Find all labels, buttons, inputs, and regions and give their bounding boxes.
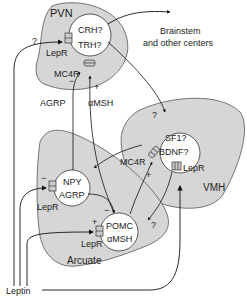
- pomc-plus-sign: +: [92, 217, 97, 227]
- npy-neuron-line1: NPY: [63, 177, 82, 187]
- vmh-mc4r-label: MC4R: [120, 157, 146, 167]
- pvn-mc4r-receptor-icon: [84, 60, 95, 66]
- vmh-lepr-label: LepR: [183, 163, 205, 173]
- agrp-signal-label: AGRP: [40, 98, 66, 108]
- vmh-lepr-receptor-icon: [172, 162, 181, 170]
- pomc-neuron-line2: αMSH: [107, 234, 132, 244]
- vmh-plus-sign: +: [146, 170, 151, 180]
- pvn-leptin-unknown: ?: [32, 36, 37, 46]
- arcuate-vmh-unknown: ?: [151, 220, 156, 230]
- arcuate-label: Arcuate: [67, 255, 102, 266]
- pomc-lepr-receptor-icon: [96, 226, 103, 236]
- pvn-label: PVN: [50, 7, 73, 19]
- pvn-neuron-line2: TRH?: [78, 40, 102, 50]
- output-label-line1: Brainstem: [160, 26, 201, 36]
- npy-neuron-line2: AGRP: [59, 190, 85, 200]
- vmh-unknown: ?: [152, 110, 157, 120]
- pvn-lepr-label: LepR: [46, 48, 68, 58]
- npy-lepr-receptor-icon: [49, 181, 56, 191]
- pvn-mc4r-label: MC4R: [54, 69, 80, 79]
- vmh-neuron-line1: SF1?: [165, 133, 187, 143]
- leptin-label: Leptin: [6, 286, 31, 296]
- output-label-line2: and other centers: [143, 38, 214, 48]
- npy-lepr-label: LepR: [37, 202, 59, 212]
- amsh-plus-sign: +: [94, 82, 99, 92]
- pomc-lepr-label: LepR: [81, 239, 103, 249]
- pvn-lepr-receptor-icon: [65, 33, 72, 43]
- pomc-minus-sign: −: [104, 205, 109, 215]
- amsh-signal-label: αMSH: [88, 98, 113, 108]
- vmh-label: VMH: [203, 182, 225, 193]
- vmh-neuron-line2: BDNF?: [159, 147, 189, 157]
- pvn-neuron-line1: CRH?: [78, 25, 103, 35]
- agrp-minus-sign: −: [69, 76, 74, 86]
- hypothalamus-leptin-circuit-diagram: PVN CRH? TRH? LepR MC4R ? − + AGRP αMSH …: [0, 0, 247, 301]
- pomc-neuron-line1: POMC: [106, 221, 134, 231]
- npy-minus-sign: −: [41, 173, 46, 183]
- pomc-neuron: [100, 213, 138, 251]
- npy-agrp-neuron: [54, 170, 90, 206]
